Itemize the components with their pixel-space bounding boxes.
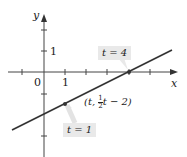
- x-axis-label: x: [171, 78, 177, 89]
- x-axis-arrow-icon: [170, 69, 178, 75]
- point-t4: [127, 70, 131, 74]
- origin-label: 0: [34, 77, 41, 88]
- y-axis-arrow-icon: [41, 14, 47, 22]
- point-label: (t, 12t − 2): [84, 95, 132, 110]
- parametric-line: [12, 50, 172, 130]
- parametric-line-diagram: y x 0 1 1 t = 4 t = 1 (t, 12t − 2): [0, 0, 187, 157]
- callout-t4: t = 4: [98, 46, 131, 60]
- x-tick-label-1: 1: [62, 77, 69, 88]
- point-label-prefix: (t,: [84, 96, 98, 107]
- y-axis-label: y: [33, 10, 39, 21]
- y-tick-label-1: 1: [50, 46, 57, 57]
- point-label-suffix: t − 2): [103, 96, 132, 107]
- point-t1: [63, 102, 67, 106]
- callout-t1: t = 1: [63, 123, 96, 137]
